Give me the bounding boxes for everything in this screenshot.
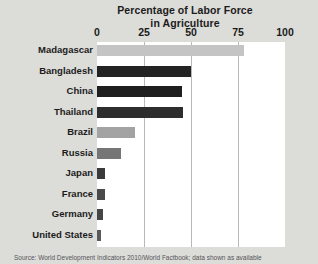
bar-row <box>97 189 285 200</box>
category-label-japan: Japan <box>0 167 93 178</box>
category-label-madagascar: Madagascar <box>0 44 93 55</box>
x-axis-tick-75: 75 <box>232 26 244 38</box>
bar-row <box>97 127 285 138</box>
bar-united-states <box>97 230 101 241</box>
category-label-thailand: Thailand <box>0 106 93 117</box>
chart-title-line-1: Percentage of Labor Force <box>70 4 300 17</box>
category-label-brazil: Brazil <box>0 126 93 137</box>
bar-germany <box>97 209 103 220</box>
x-axis-tick-25: 25 <box>138 26 150 38</box>
category-label-france: France <box>0 188 93 199</box>
category-label-russia: Russia <box>0 147 93 158</box>
bar-row <box>97 86 285 97</box>
bar-japan <box>97 168 105 179</box>
category-label-germany: Germany <box>0 208 93 219</box>
x-axis-tick-0: 0 <box>94 26 100 38</box>
category-label-bangladesh: Bangladesh <box>0 65 93 76</box>
bar-row <box>97 148 285 159</box>
bar-row <box>97 168 285 179</box>
x-axis-tick-50: 50 <box>185 26 197 38</box>
bar-france <box>97 189 105 200</box>
bar-row <box>97 107 285 118</box>
bar-brazil <box>97 127 135 138</box>
bar-row <box>97 230 285 241</box>
category-label-united-states: United States <box>0 229 93 240</box>
bar-china <box>97 86 182 97</box>
x-axis-tick-labels: 0255075100 <box>0 26 318 40</box>
bar-row <box>97 209 285 220</box>
x-axis-tick-100: 100 <box>276 26 294 38</box>
source-note: Source: World Development Indicators 201… <box>14 254 314 262</box>
category-label-china: China <box>0 85 93 96</box>
chart-figure: Percentage of Labor Force in Agriculture… <box>0 0 318 264</box>
bar-bangladesh <box>97 66 191 77</box>
bar-thailand <box>97 107 183 118</box>
bar-madagascar <box>97 45 244 56</box>
bar-russia <box>97 148 121 159</box>
bar-row <box>97 66 285 77</box>
y-axis-category-labels: MadagascarBangladeshChinaThailandBrazilR… <box>0 42 93 247</box>
plot-area <box>97 42 285 247</box>
bar-row <box>97 45 285 56</box>
